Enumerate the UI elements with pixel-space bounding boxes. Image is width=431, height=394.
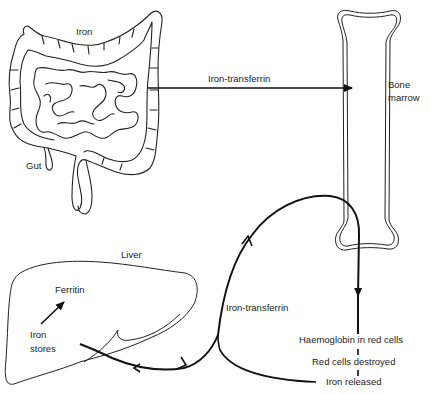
label-haemoglobin: Haemoglobin in red cells bbox=[298, 334, 404, 346]
arrow-stores-to-ferritin bbox=[41, 302, 64, 324]
label-red-cells-destroyed: Red cells destroyed bbox=[311, 356, 396, 368]
bone-illustration bbox=[335, 10, 400, 250]
arrow-junction-to-stores bbox=[80, 335, 218, 370]
label-iron-stores-2: stores bbox=[30, 343, 56, 355]
label-iron-released: Iron released bbox=[325, 376, 382, 388]
liver-illustration bbox=[5, 261, 197, 384]
label-bone-marrow-1: Bone bbox=[388, 79, 410, 91]
label-iron-stores-1: Iron bbox=[30, 329, 46, 341]
gut-illustration bbox=[9, 11, 162, 214]
label-gut-iron: Iron bbox=[76, 26, 92, 38]
label-ferritin: Ferritin bbox=[55, 284, 85, 296]
label-bone-marrow-2: marrow bbox=[388, 92, 420, 104]
label-liver: Liver bbox=[121, 249, 142, 261]
iron-cycle-diagram: Iron Gut Iron-transferrin Bone marrow Li… bbox=[0, 0, 431, 394]
label-transport-bottom: Iron-transferrin bbox=[226, 302, 288, 314]
arrow-liver-to-marrow bbox=[218, 196, 359, 335]
label-transport-top: Iron-transferrin bbox=[208, 73, 270, 85]
label-gut: Gut bbox=[26, 160, 41, 172]
